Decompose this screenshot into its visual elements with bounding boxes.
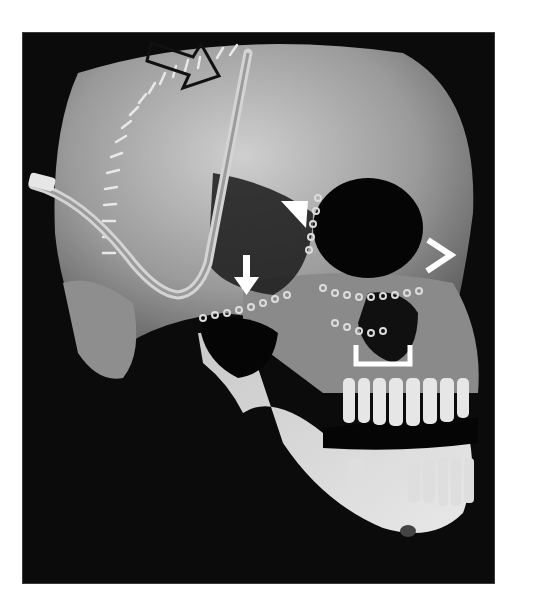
skull-rendering — [23, 33, 495, 584]
upper-teeth — [343, 378, 469, 426]
orbit — [313, 178, 423, 278]
mental-foramen — [400, 525, 416, 537]
ct-image-frame — [22, 32, 495, 584]
